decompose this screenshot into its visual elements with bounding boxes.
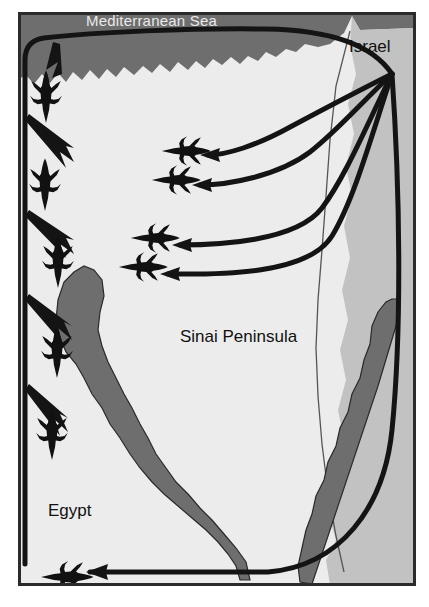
map-figure: Mediterranean Sea Israel Sinai Peninsula… [0, 0, 429, 607]
map-body [19, 13, 415, 593]
map-canvas [0, 0, 429, 607]
